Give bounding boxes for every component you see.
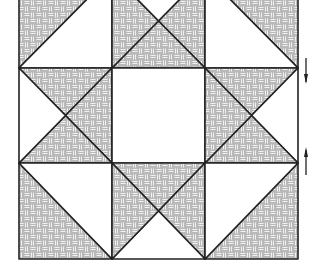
quilt-patches	[19, 0, 298, 259]
direction-arrows	[304, 58, 308, 175]
arrow-down-head-icon	[304, 74, 308, 84]
plain-patch	[112, 68, 205, 163]
quilt-diagram	[0, 0, 324, 266]
arrow-up-head-icon	[304, 147, 308, 157]
